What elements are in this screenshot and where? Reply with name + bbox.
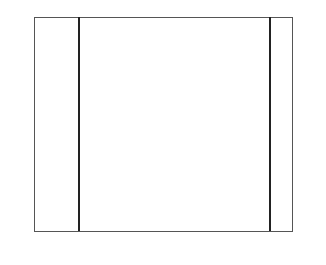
chart-grid: [34, 17, 293, 232]
pattern-left-border: [78, 17, 80, 231]
knitting-chart: [34, 17, 293, 232]
pattern-right-border: [269, 17, 271, 231]
